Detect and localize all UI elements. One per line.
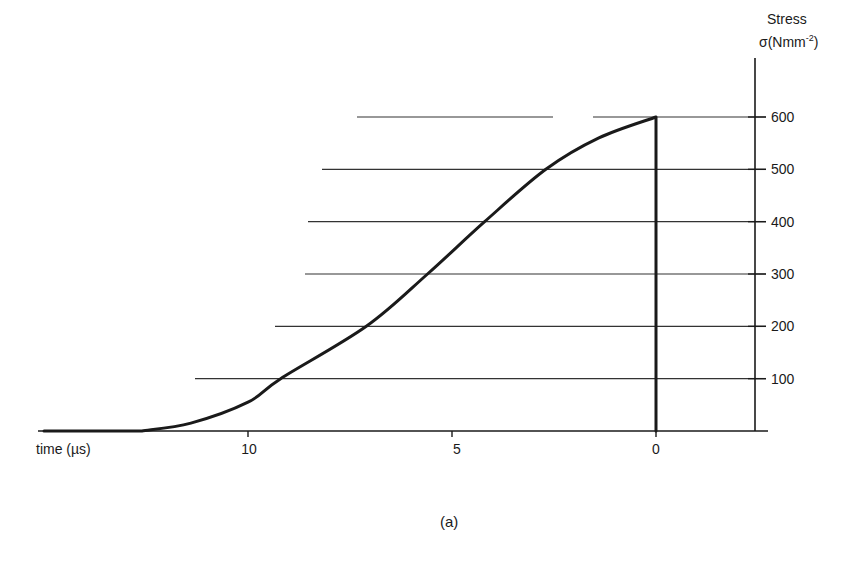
y-tick-marks: [748, 117, 766, 379]
y-unit-base: σ(Nmm: [759, 34, 806, 50]
x-tick-marks: [248, 431, 656, 437]
gridlines: [195, 117, 766, 379]
x-axis-title: time (µs): [36, 441, 91, 457]
x-tick-5: 5: [453, 441, 461, 457]
y-axis-title: Stress: [767, 11, 807, 27]
x-tick-0: 0: [652, 441, 660, 457]
figure-caption: (a): [440, 513, 458, 530]
y-tick-400: 400: [771, 214, 794, 230]
y-unit-close: ): [814, 34, 819, 50]
y-tick-500: 500: [771, 161, 794, 177]
y-tick-600: 600: [771, 109, 794, 125]
y-axis-unit: σ(Nmm-2): [759, 33, 818, 50]
y-tick-300: 300: [771, 266, 794, 282]
y-tick-200: 200: [771, 318, 794, 334]
y-unit-exponent: -2: [806, 33, 814, 43]
stress-time-chart: [0, 0, 867, 573]
x-tick-10: 10: [241, 441, 257, 457]
y-tick-100: 100: [771, 371, 794, 387]
